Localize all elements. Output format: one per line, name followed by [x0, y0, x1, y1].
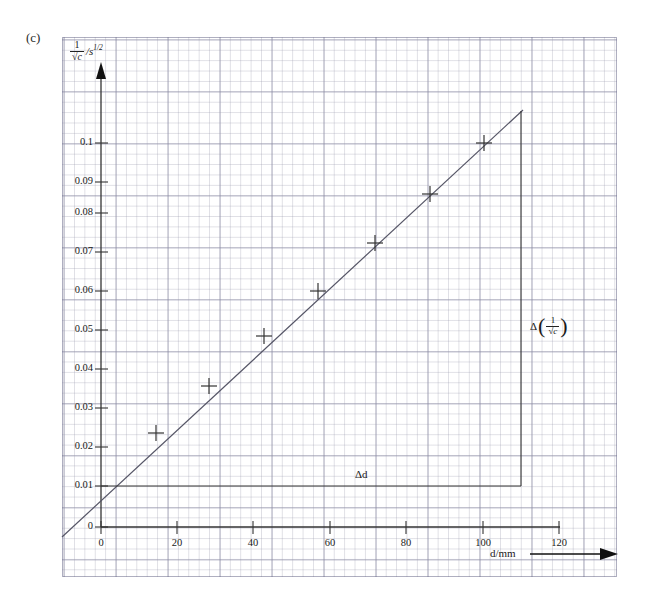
y-tick-label: 0.07: [57, 245, 93, 256]
delta-y-label: Δ ( 1 √c ): [530, 315, 569, 337]
data-point-marker: [201, 378, 217, 394]
delta-y-fraction: 1 √c: [546, 316, 559, 336]
delta-y-numerator: 1: [549, 316, 558, 325]
y-axis-title-units-exponent: 1/2: [93, 43, 103, 52]
paren-close: ): [560, 315, 567, 337]
data-point-marker: [256, 328, 272, 344]
x-axis-label-arrow: [530, 548, 618, 560]
y-axis-group: [96, 62, 106, 527]
x-tick-label: 20: [167, 537, 187, 548]
y-tick-label: 0.03: [57, 401, 93, 412]
y-tick-label: 0.01: [57, 479, 93, 490]
delta-y-denominator: √c: [546, 327, 559, 336]
data-point-marker: [310, 283, 326, 299]
y-tick-label: 0.02: [57, 440, 93, 451]
x-tick-label: 80: [396, 537, 416, 548]
y-tick-label: 0.06: [57, 284, 93, 295]
x-tick-label: 0: [91, 537, 111, 548]
best-fit-line: [62, 110, 523, 537]
y-tick-label: 0.05: [57, 323, 93, 334]
y-axis-title-fraction: 1 √c: [70, 40, 84, 62]
data-point-markers: [148, 135, 492, 441]
y-axis-title-units: /s: [86, 45, 93, 57]
delta-d-label: Δd: [355, 468, 368, 480]
gradient-triangle: [101, 111, 521, 486]
x-tick-label: 40: [243, 537, 263, 548]
delta-symbol: Δ: [530, 320, 537, 332]
data-point-marker: [367, 235, 383, 251]
data-point-marker: [422, 186, 438, 202]
y-axis-arrowhead: [96, 62, 106, 79]
x-tick-label: 120: [549, 537, 569, 548]
y-axis-title-numerator: 1: [72, 40, 81, 51]
x-tick-label: 60: [320, 537, 340, 548]
data-point-marker: [476, 135, 492, 151]
y-tick-label: 0: [57, 520, 93, 531]
figure-root: (c): [0, 0, 647, 600]
y-tick-label: 0.08: [57, 206, 93, 217]
y-tick-label: 0.1: [57, 136, 93, 147]
x-axis-title: d/mm: [490, 547, 516, 559]
paren-open: (: [538, 315, 545, 337]
y-tick-label: 0.09: [57, 175, 93, 186]
delta-d-text: Δd: [355, 468, 368, 480]
y-tick-label: 0.04: [57, 362, 93, 373]
graph-overlay: [0, 0, 647, 600]
y-axis-title: 1 √c /s 1/2: [70, 40, 103, 62]
data-point-marker: [148, 425, 164, 441]
y-axis-title-denominator: √c: [70, 52, 84, 63]
